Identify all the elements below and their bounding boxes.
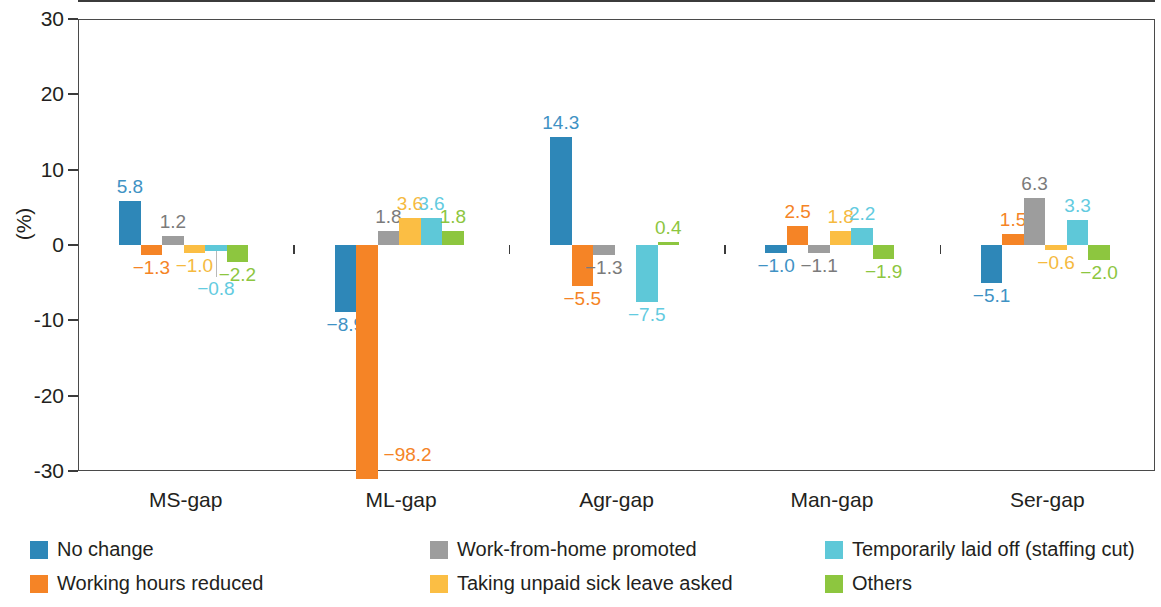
legend-item[interactable]: Temporarily laid off (staffing cut) xyxy=(825,538,1135,561)
bar xyxy=(335,245,357,312)
bar-value-label: −1.1 xyxy=(800,256,838,275)
y-axis-tick-label: 0 xyxy=(8,234,64,255)
bar-value-label: 2.5 xyxy=(784,202,810,221)
bar-value-label: −5.1 xyxy=(973,286,1011,305)
bar-value-label: −2.0 xyxy=(1080,263,1118,282)
legend-swatch-icon xyxy=(30,541,48,559)
legend-label: Work-from-home promoted xyxy=(457,538,697,561)
x-axis-tick-mark xyxy=(293,245,295,254)
bar xyxy=(873,245,895,259)
x-axis-category-label: Man-gap xyxy=(790,488,873,512)
zero-baseline xyxy=(78,0,1155,2)
bar xyxy=(851,228,873,245)
y-axis-tick-label: 30 xyxy=(8,8,64,29)
bar-value-label: 2.2 xyxy=(849,204,875,223)
bar xyxy=(1024,198,1046,245)
legend-label: No change xyxy=(57,538,154,561)
bar xyxy=(1045,245,1067,250)
bar-value-label: 5.8 xyxy=(117,177,143,196)
legend-label: Working hours reduced xyxy=(57,572,263,595)
x-axis-category-label: Ser-gap xyxy=(1010,488,1085,512)
y-axis-tick-label: 20 xyxy=(8,83,64,104)
bar-value-label: 1.2 xyxy=(160,212,186,231)
bar xyxy=(981,245,1003,283)
y-axis-tick-mark xyxy=(68,169,78,171)
legend-swatch-icon xyxy=(825,541,843,559)
bar xyxy=(830,231,852,245)
bar-value-label: −98.2 xyxy=(384,445,432,464)
bar-value-label: 14.3 xyxy=(542,113,579,132)
bar xyxy=(658,242,680,245)
bar xyxy=(162,236,184,245)
bar xyxy=(356,245,378,479)
chart-legend: No changeWorking hours reducedWork-from-… xyxy=(30,538,1150,600)
y-axis-tick-mark xyxy=(68,93,78,95)
bar-value-label: −1.9 xyxy=(865,262,903,281)
x-axis-tick-mark xyxy=(940,245,942,254)
legend-swatch-icon xyxy=(30,575,48,593)
x-axis-category-label: ML-gap xyxy=(365,488,436,512)
bar xyxy=(1002,234,1024,245)
bar-value-label: −1.0 xyxy=(176,256,214,275)
legend-swatch-icon xyxy=(430,541,448,559)
legend-item[interactable]: No change xyxy=(30,538,154,561)
y-axis-tick-label: -20 xyxy=(8,385,64,406)
bar-value-label: −0.6 xyxy=(1037,253,1075,272)
legend-item[interactable]: Others xyxy=(825,572,912,595)
y-axis-tick-label: 10 xyxy=(8,159,64,180)
bar xyxy=(787,226,809,245)
bar-value-label: −2.2 xyxy=(219,265,257,284)
x-axis-category-label: Agr-gap xyxy=(579,488,654,512)
bar-value-label: −1.3 xyxy=(585,258,623,277)
bar-value-label: −5.5 xyxy=(563,289,601,308)
bar xyxy=(636,245,658,302)
bar-value-label: −7.5 xyxy=(628,305,666,324)
y-axis-tick-mark xyxy=(68,470,78,472)
y-axis-tick-mark xyxy=(68,244,78,246)
y-axis-tick-mark xyxy=(68,395,78,397)
bar-value-label: 6.3 xyxy=(1021,174,1047,193)
bar xyxy=(227,245,249,262)
x-axis-category-label: MS-gap xyxy=(149,488,223,512)
bar-value-label: 3.3 xyxy=(1064,196,1090,215)
bar xyxy=(1067,220,1089,245)
bar-value-label: −1.3 xyxy=(133,258,171,277)
legend-label: Taking unpaid sick leave asked xyxy=(457,572,733,595)
y-axis-tick-mark xyxy=(68,319,78,321)
y-axis-tick-mark xyxy=(68,18,78,20)
legend-item[interactable]: Work-from-home promoted xyxy=(430,538,697,561)
bar xyxy=(442,231,464,245)
bar xyxy=(1088,245,1110,260)
bar xyxy=(399,218,421,245)
legend-swatch-icon xyxy=(430,575,448,593)
bar xyxy=(550,137,572,245)
bar xyxy=(808,245,830,253)
bar-value-label: 1.5 xyxy=(1000,210,1026,229)
bar xyxy=(765,245,787,253)
y-axis-tick-label: -30 xyxy=(8,460,64,481)
bar-value-label: 1.8 xyxy=(440,207,466,226)
legend-label: Others xyxy=(852,572,912,595)
bar-chart: (%) 3020100-10-20-30 5.8−8.914.3−1.0−5.1… xyxy=(0,0,1161,607)
bar-value-label: −1.0 xyxy=(757,256,795,275)
bar xyxy=(378,231,400,245)
bar xyxy=(184,245,206,253)
legend-item[interactable]: Taking unpaid sick leave asked xyxy=(430,572,733,595)
bar-value-label: 0.4 xyxy=(655,218,681,237)
legend-swatch-icon xyxy=(825,575,843,593)
bar xyxy=(119,201,141,245)
legend-item[interactable]: Working hours reduced xyxy=(30,572,263,595)
y-axis-tick-label: -10 xyxy=(8,309,64,330)
bar xyxy=(593,245,615,255)
label-leader-line xyxy=(216,251,217,277)
x-axis-tick-mark xyxy=(724,245,726,254)
legend-label: Temporarily laid off (staffing cut) xyxy=(852,538,1135,561)
x-axis-tick-mark xyxy=(509,245,511,254)
bar xyxy=(141,245,163,255)
